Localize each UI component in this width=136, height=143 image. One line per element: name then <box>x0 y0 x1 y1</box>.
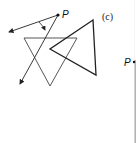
point-p <box>56 13 59 16</box>
ray-down-arrow <box>20 15 58 84</box>
diagram: P (c) P <box>0 0 136 143</box>
rotated-triangle <box>50 20 96 75</box>
point-p-label: P <box>62 9 69 20</box>
right-point-p-label: P <box>124 57 131 68</box>
ray-left-arrow <box>9 15 58 32</box>
panel-label: (c) <box>102 11 113 23</box>
rotation-angle-arc <box>39 22 45 30</box>
right-point-p <box>133 61 135 63</box>
